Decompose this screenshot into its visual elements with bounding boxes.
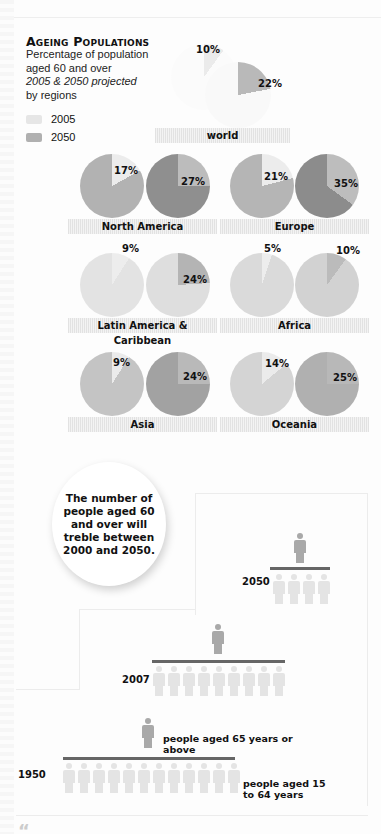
legend-swatch-2050 <box>26 133 42 142</box>
pct-oceania-2005: 14% <box>265 358 289 369</box>
person-young-icon <box>288 574 300 604</box>
person-young-icon <box>273 666 285 696</box>
pct-africa-2005: 5% <box>264 243 281 254</box>
pct-oceania-2050: 25% <box>333 372 357 383</box>
legend-swatch-2005 <box>26 115 42 124</box>
pct-asia-2050: 24% <box>183 371 207 382</box>
region-label-africa: Africa <box>220 318 369 333</box>
legend: 2005 2050 <box>26 110 75 146</box>
pie-asia-2050 <box>146 352 210 416</box>
pie-world-2050 <box>205 62 271 128</box>
person-young-icon <box>213 763 225 793</box>
person-young-icon <box>198 763 210 793</box>
region-label-world: world <box>155 128 290 143</box>
pct-world-2050: 22% <box>258 78 282 89</box>
region-label-north-america: North America <box>68 219 217 234</box>
year-label-2050: 2050 <box>242 576 270 587</box>
pct-africa-2050: 10% <box>336 245 360 256</box>
person-young-icon <box>213 666 225 696</box>
pie-africa-2005 <box>230 253 294 317</box>
person-young-icon <box>228 666 240 696</box>
person-young-icon <box>78 763 90 793</box>
person-young-icon <box>153 763 165 793</box>
legend-item-2050: 2050 <box>26 128 75 146</box>
quote-mark-icon: “ <box>18 826 30 834</box>
person-young-icon <box>243 666 255 696</box>
person-young-icon <box>303 574 315 604</box>
panel-edge <box>79 609 196 610</box>
pie-latin-america-2005 <box>80 253 144 317</box>
pie-europe-2005 <box>230 154 294 218</box>
pct-north-america-2005: 17% <box>114 165 138 176</box>
decorative-edge-strip <box>0 0 14 834</box>
panel-edge <box>16 689 80 690</box>
person-young-icon <box>108 763 120 793</box>
panel-edge <box>79 609 80 689</box>
person-young-icon <box>183 666 195 696</box>
person-young-icon <box>93 763 105 793</box>
legend-item-2005: 2005 <box>26 110 75 128</box>
person-young-icon <box>258 666 270 696</box>
person-young-icon <box>198 666 210 696</box>
person-old-icon <box>294 533 306 563</box>
divider-bar-2050 <box>270 567 330 570</box>
person-young-icon <box>138 763 150 793</box>
person-young-icon <box>228 763 240 793</box>
page-title: Ageing Populations <box>26 34 149 49</box>
person-old-icon <box>212 624 224 654</box>
pct-europe-2005: 21% <box>264 171 288 182</box>
label-old-age: people aged 65 years or above <box>163 733 293 755</box>
person-young-icon <box>183 763 195 793</box>
person-young-icon <box>273 574 285 604</box>
region-label-oceania: Oceania <box>220 417 369 432</box>
panel-edge <box>195 493 196 615</box>
pie-oceania-2050 <box>295 352 359 416</box>
callout-bubble: The number of people aged 60 and over wi… <box>52 462 166 586</box>
year-label-1950: 1950 <box>18 769 46 780</box>
pie-asia-2005 <box>80 352 144 416</box>
divider-bar-1950 <box>63 757 235 760</box>
pct-asia-2005: 9% <box>113 357 130 368</box>
pie-africa-2050 <box>295 253 359 317</box>
chart-subtitle: Percentage of population aged 60 and ove… <box>26 48 148 102</box>
label-working-age: people aged 15 to 64 years <box>243 778 333 800</box>
person-young-icon <box>168 666 180 696</box>
pct-europe-2050: 35% <box>334 178 358 189</box>
divider-bar-2007 <box>152 660 285 663</box>
pie-north-america-2005 <box>80 154 144 218</box>
pct-north-america-2050: 27% <box>181 176 205 187</box>
person-old-icon <box>142 718 154 748</box>
pct-latin-america-2050: 24% <box>183 274 207 285</box>
panel-edge <box>16 815 368 816</box>
pct-world-2005: 10% <box>196 44 220 55</box>
region-label-latin-america: Latin America & Caribbean <box>68 318 217 333</box>
panel-edge <box>367 493 368 806</box>
person-young-icon <box>153 666 165 696</box>
pct-latin-america-2005: 9% <box>122 243 139 254</box>
person-young-icon <box>123 763 135 793</box>
panel-edge <box>195 493 368 494</box>
pie-latin-america-2050 <box>146 253 210 317</box>
year-label-2007: 2007 <box>122 674 150 685</box>
top-divider <box>14 17 381 18</box>
person-young-icon <box>63 763 75 793</box>
region-label-europe: Europe <box>220 219 369 234</box>
person-young-icon <box>318 574 330 604</box>
person-young-icon <box>168 763 180 793</box>
region-label-asia: Asia <box>68 417 217 432</box>
